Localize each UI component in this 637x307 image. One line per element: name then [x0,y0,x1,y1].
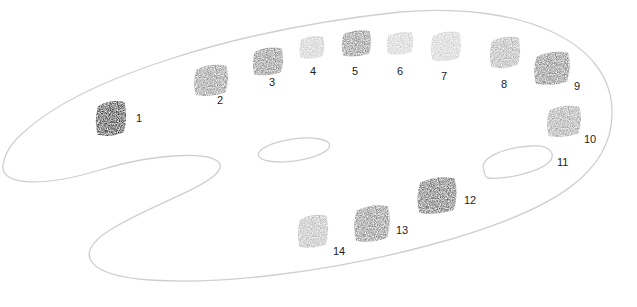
swatch-label-8: 8 [501,79,507,90]
paint-swatch-10 [545,103,583,139]
swatch-label-7: 7 [441,71,447,82]
paint-swatch-4 [298,34,326,60]
thumb-hole [483,146,552,178]
paint-swatch-12 [415,174,459,216]
paint-swatch-6 [385,30,415,56]
swatch-label-4: 4 [310,66,316,77]
swatch-label-11: 11 [557,157,568,168]
swatch-label-3: 3 [269,77,275,88]
swatch-label-14: 14 [333,246,345,257]
swatch-label-1: 1 [136,113,142,124]
swatch-label-10: 10 [584,134,596,145]
swatch-label-9: 9 [574,81,580,92]
paint-swatch-7 [429,29,463,63]
paint-swatch-3 [251,45,285,77]
paint-swatch-2 [192,62,230,98]
paint-swatch-14 [296,212,330,250]
swatch-label-13: 13 [396,225,408,236]
paint-swatch-13 [352,202,392,244]
center-oval [257,134,331,166]
swatch-label-5: 5 [352,66,358,77]
paint-swatch-5 [340,28,373,58]
paint-swatch-9 [532,49,572,87]
swatch-label-6: 6 [397,66,403,77]
paint-swatch-8 [488,34,522,70]
swatch-label-12: 12 [464,195,476,206]
paint-swatch-1 [94,98,128,138]
palette-figure: 12345678910121314 11 [0,0,637,307]
swatch-label-2: 2 [217,95,223,106]
